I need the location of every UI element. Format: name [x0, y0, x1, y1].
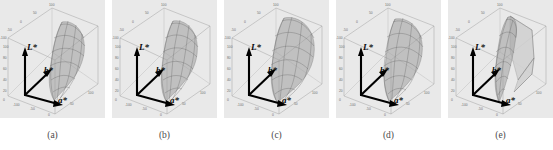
- svg-text:50: 50: [182, 102, 186, 106]
- axis-label-lightness: L*: [362, 42, 373, 52]
- svg-text:100: 100: [385, 3, 391, 7]
- svg-text:0: 0: [272, 113, 274, 117]
- axis-label-lightness: L*: [138, 42, 149, 52]
- svg-text:-100: -100: [336, 36, 343, 40]
- svg-text:100: 100: [424, 91, 430, 95]
- svg-text:-50: -50: [254, 107, 259, 111]
- svg-text:50: 50: [369, 11, 373, 15]
- axis-label-red-green: a*: [394, 95, 404, 105]
- svg-text:-100: -100: [125, 103, 132, 107]
- svg-text:100: 100: [3, 45, 9, 49]
- svg-text:-50: -50: [119, 28, 124, 32]
- svg-text:60: 60: [3, 67, 7, 71]
- panel-row: 100 50 0 -50 -100 100 80 60 40 20 0 -100…: [0, 0, 553, 119]
- gamut-mesh-e: [495, 16, 534, 102]
- svg-text:-50: -50: [455, 28, 460, 32]
- svg-text:0: 0: [20, 20, 22, 24]
- svg-text:-100: -100: [349, 103, 356, 107]
- axis-label-lightness: L*: [250, 42, 261, 52]
- svg-text:80: 80: [115, 56, 119, 60]
- svg-text:0: 0: [244, 20, 246, 24]
- svg-text:0: 0: [115, 98, 117, 102]
- svg-text:-100: -100: [237, 103, 244, 107]
- gamut-mesh-b: [161, 20, 198, 101]
- svg-text:60: 60: [339, 67, 343, 71]
- svg-text:0: 0: [3, 98, 5, 102]
- svg-text:0: 0: [132, 20, 134, 24]
- svg-text:0: 0: [384, 113, 386, 117]
- svg-text:20: 20: [339, 89, 343, 93]
- svg-text:40: 40: [451, 78, 455, 82]
- svg-text:-100: -100: [112, 36, 119, 40]
- svg-text:-100: -100: [224, 36, 231, 40]
- svg-text:100: 100: [451, 45, 457, 49]
- svg-text:0: 0: [160, 113, 162, 117]
- axis-label-blue-yellow: b*: [492, 65, 502, 75]
- svg-text:0: 0: [227, 98, 229, 102]
- svg-text:100: 100: [497, 3, 503, 7]
- svg-text:50: 50: [257, 11, 261, 15]
- caption-a: (a): [0, 130, 105, 140]
- svg-text:-50: -50: [478, 107, 483, 111]
- svg-text:-50: -50: [7, 28, 12, 32]
- svg-text:20: 20: [115, 89, 119, 93]
- svg-text:50: 50: [33, 11, 37, 15]
- svg-text:100: 100: [536, 91, 542, 95]
- svg-text:40: 40: [115, 78, 119, 82]
- svg-text:-100: -100: [448, 36, 455, 40]
- svg-text:100: 100: [200, 91, 206, 95]
- svg-text:0: 0: [356, 20, 358, 24]
- svg-text:0: 0: [48, 113, 50, 117]
- svg-text:60: 60: [451, 67, 455, 71]
- axis-label-red-green: a*: [170, 95, 180, 105]
- svg-text:50: 50: [294, 102, 298, 106]
- panel-c: 100 50 0 -50 -100 100 80 60 40 20 0 -100…: [224, 0, 329, 118]
- svg-text:100: 100: [115, 45, 121, 49]
- caption-e: (e): [448, 130, 553, 140]
- gamut-mesh-c: [271, 17, 314, 102]
- gamut-mesh-d: [384, 18, 423, 101]
- svg-text:-50: -50: [366, 107, 371, 111]
- axis-label-red-green: a*: [282, 95, 292, 105]
- svg-text:100: 100: [49, 3, 55, 7]
- svg-text:-100: -100: [13, 103, 20, 107]
- svg-text:-50: -50: [343, 28, 348, 32]
- caption-b: (b): [112, 130, 217, 140]
- svg-text:100: 100: [227, 45, 233, 49]
- svg-text:100: 100: [161, 3, 167, 7]
- svg-text:100: 100: [339, 45, 345, 49]
- svg-text:100: 100: [273, 3, 279, 7]
- svg-text:0: 0: [496, 113, 498, 117]
- panel-d: 100 50 0 -50 -100 100 80 60 40 20 0 -100…: [336, 0, 441, 118]
- svg-text:60: 60: [227, 67, 231, 71]
- svg-text:40: 40: [227, 78, 231, 82]
- svg-text:80: 80: [227, 56, 231, 60]
- svg-text:0: 0: [451, 98, 453, 102]
- axis-label-blue-yellow: b*: [44, 65, 54, 75]
- svg-text:20: 20: [451, 89, 455, 93]
- axis-label-blue-yellow: b*: [268, 65, 278, 75]
- svg-text:50: 50: [406, 102, 410, 106]
- svg-text:40: 40: [339, 78, 343, 82]
- svg-text:60: 60: [115, 67, 119, 71]
- gamut-mesh-a: [49, 21, 85, 100]
- caption-row: (a) (b) (c) (d) (e): [0, 119, 553, 150]
- axis-label-lightness: L*: [26, 42, 37, 52]
- svg-text:20: 20: [3, 89, 7, 93]
- gamut-figure: 100 50 0 -50 -100 100 80 60 40 20 0 -100…: [0, 0, 553, 150]
- panel-e: 100 50 0 -50 -100 100 80 60 40 20 0 -100…: [448, 0, 553, 118]
- svg-text:-100: -100: [461, 103, 468, 107]
- svg-text:-50: -50: [142, 107, 147, 111]
- svg-text:-100: -100: [0, 36, 7, 40]
- svg-text:50: 50: [70, 102, 74, 106]
- svg-text:20: 20: [227, 89, 231, 93]
- svg-text:80: 80: [339, 56, 343, 60]
- svg-text:100: 100: [88, 91, 94, 95]
- svg-text:-50: -50: [30, 107, 35, 111]
- svg-text:50: 50: [518, 102, 522, 106]
- panel-a: 100 50 0 -50 -100 100 80 60 40 20 0 -100…: [0, 0, 105, 118]
- caption-c: (c): [224, 130, 329, 140]
- svg-text:0: 0: [468, 20, 470, 24]
- caption-d: (d): [336, 130, 441, 140]
- svg-text:50: 50: [481, 11, 485, 15]
